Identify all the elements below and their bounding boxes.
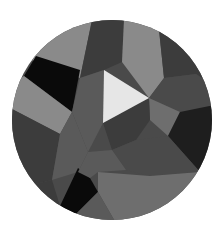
logo-stage: Low-poly grayscale play-button emblem xyxy=(0,0,224,234)
play-logo-emblem xyxy=(0,0,224,234)
